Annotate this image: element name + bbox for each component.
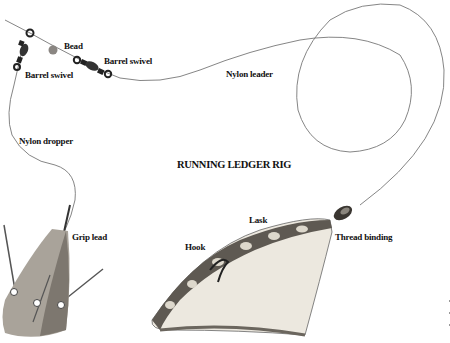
label-thread-binding: Thread binding bbox=[335, 232, 392, 242]
barrel-swivel-left-icon bbox=[14, 30, 34, 71]
bead-icon bbox=[49, 46, 58, 55]
grip-lead-icon bbox=[3, 205, 104, 337]
label-lask: Lask bbox=[249, 215, 267, 225]
thread-binding-icon bbox=[331, 203, 354, 223]
label-nylon-dropper: Nylon dropper bbox=[19, 136, 73, 146]
main-line bbox=[5, 4, 444, 205]
label-barrel-swivel-right: Barrel swivel bbox=[104, 56, 152, 66]
rig-illustration bbox=[0, 0, 450, 343]
label-nylon-leader: Nylon leader bbox=[226, 69, 273, 79]
diagram-title: RUNNING LEDGER RIG bbox=[177, 159, 291, 170]
lask-bait-icon bbox=[152, 219, 332, 335]
label-bead: Bead bbox=[64, 41, 83, 51]
label-grip-lead: Grip lead bbox=[72, 232, 107, 242]
label-barrel-swivel-left: Barrel swivel bbox=[25, 70, 73, 80]
label-hook: Hook bbox=[185, 242, 205, 252]
